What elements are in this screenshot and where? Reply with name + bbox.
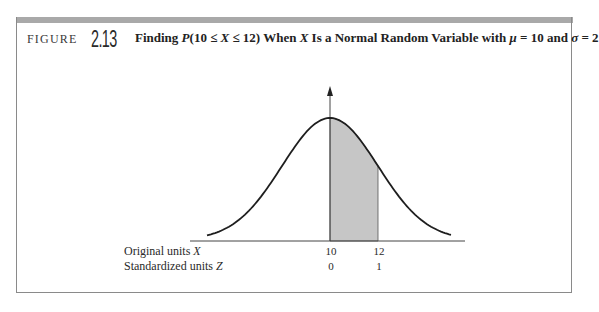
standardized-units-text: Standardized units (124, 259, 216, 273)
normal-curve (207, 118, 451, 235)
standardized-units-label: Standardized units Z (124, 259, 223, 274)
tick-z-1: 1 (376, 260, 382, 272)
arrow-up-icon (327, 86, 333, 96)
shaded-area (330, 118, 378, 241)
original-units-label: Original units X (124, 244, 201, 259)
standardized-units-var: Z (216, 259, 223, 273)
original-units-text: Original units (124, 244, 193, 258)
tick-x-12: 12 (374, 245, 385, 257)
tick-x-10: 10 (326, 245, 337, 257)
original-units-var: X (193, 244, 200, 258)
tick-z-0: 0 (328, 260, 334, 272)
